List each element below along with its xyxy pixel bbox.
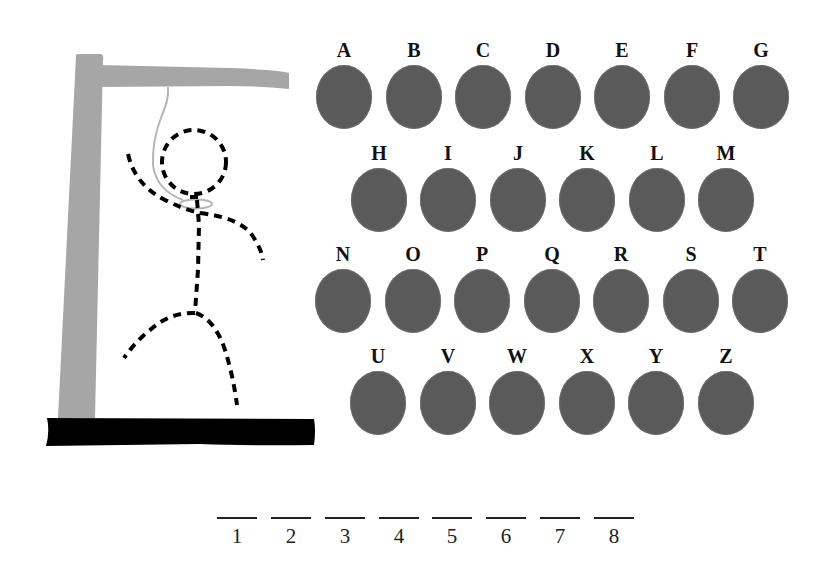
letter-label: V <box>419 345 477 367</box>
letter-label: Q <box>523 243 581 265</box>
letter-key-e[interactable]: E <box>593 39 651 127</box>
letter-disc[interactable] <box>350 371 406 435</box>
word-slot-4: 4 <box>379 512 419 548</box>
letter-key-o[interactable]: O <box>384 243 442 331</box>
letter-key-l[interactable]: L <box>628 142 686 230</box>
letter-key-t[interactable]: T <box>731 243 789 331</box>
word-slot-2: 2 <box>271 512 311 548</box>
letter-disc[interactable] <box>698 168 754 232</box>
word-slot-6: 6 <box>486 512 526 548</box>
letter-label: Y <box>627 345 685 367</box>
letter-disc[interactable] <box>351 168 407 232</box>
letter-disc[interactable] <box>420 168 476 232</box>
letter-disc[interactable] <box>593 269 649 333</box>
letter-disc[interactable] <box>524 269 580 333</box>
letter-disc[interactable] <box>385 269 441 333</box>
slot-underline <box>594 517 634 519</box>
letter-label: X <box>558 345 616 367</box>
word-slot-8: 8 <box>594 512 634 548</box>
letter-label: N <box>314 243 372 265</box>
letter-disc[interactable] <box>733 65 789 129</box>
slot-number: 6 <box>486 524 526 548</box>
letter-disc[interactable] <box>525 65 581 129</box>
letter-key-n[interactable]: N <box>314 243 372 331</box>
letter-key-g[interactable]: G <box>732 39 790 127</box>
word-slot-3: 3 <box>325 512 365 548</box>
letter-disc[interactable] <box>315 269 371 333</box>
letter-label: E <box>593 39 651 61</box>
word-slot-1: 1 <box>217 512 257 548</box>
letter-key-z[interactable]: Z <box>697 345 755 433</box>
letter-key-x[interactable]: X <box>558 345 616 433</box>
letter-disc[interactable] <box>454 269 510 333</box>
letter-label: U <box>349 345 407 367</box>
letter-key-c[interactable]: C <box>454 39 512 127</box>
letter-label: S <box>662 243 720 265</box>
letter-label: C <box>454 39 512 61</box>
gallows-beam <box>98 65 289 89</box>
letter-label: L <box>628 142 686 164</box>
letter-disc[interactable] <box>698 371 754 435</box>
letter-disc[interactable] <box>732 269 788 333</box>
figure-body <box>195 200 199 312</box>
letter-disc[interactable] <box>628 371 684 435</box>
letter-disc[interactable] <box>420 371 476 435</box>
letter-label: I <box>419 142 477 164</box>
letter-disc[interactable] <box>664 65 720 129</box>
letter-disc[interactable] <box>490 168 546 232</box>
gallows-frame <box>46 54 315 446</box>
slot-underline <box>486 517 526 519</box>
gallows-post <box>58 54 103 418</box>
letter-key-y[interactable]: Y <box>627 345 685 433</box>
letter-key-w[interactable]: W <box>488 345 546 433</box>
letter-label: K <box>558 142 616 164</box>
letter-disc[interactable] <box>663 269 719 333</box>
letter-disc[interactable] <box>386 65 442 129</box>
letter-key-m[interactable]: M <box>697 142 755 230</box>
letter-label: W <box>488 345 546 367</box>
letter-key-h[interactable]: H <box>350 142 408 230</box>
slot-number: 7 <box>540 524 580 548</box>
letter-key-q[interactable]: Q <box>523 243 581 331</box>
figure-head <box>162 130 226 194</box>
gallows-base <box>46 418 315 446</box>
letter-key-b[interactable]: B <box>385 39 443 127</box>
slot-underline <box>217 517 257 519</box>
letter-key-k[interactable]: K <box>558 142 616 230</box>
letter-key-s[interactable]: S <box>662 243 720 331</box>
slot-underline <box>271 517 311 519</box>
slot-number: 2 <box>271 524 311 548</box>
letter-key-u[interactable]: U <box>349 345 407 433</box>
letter-key-r[interactable]: R <box>592 243 650 331</box>
letter-key-j[interactable]: J <box>489 142 547 230</box>
figure-right-leg <box>196 313 237 405</box>
letter-label: O <box>384 243 442 265</box>
letter-disc[interactable] <box>455 65 511 129</box>
letter-disc[interactable] <box>316 65 372 129</box>
letter-key-i[interactable]: I <box>419 142 477 230</box>
slot-underline <box>540 517 580 519</box>
letter-label: D <box>524 39 582 61</box>
letter-label: T <box>731 243 789 265</box>
letter-disc[interactable] <box>594 65 650 129</box>
letter-disc[interactable] <box>629 168 685 232</box>
letter-disc[interactable] <box>559 168 615 232</box>
stick-figure <box>124 130 263 405</box>
word-slot-7: 7 <box>540 512 580 548</box>
letter-key-a[interactable]: A <box>315 39 373 127</box>
letter-label: Z <box>697 345 755 367</box>
letter-label: H <box>350 142 408 164</box>
figure-right-arm <box>200 213 263 260</box>
letter-key-v[interactable]: V <box>419 345 477 433</box>
letter-label: J <box>489 142 547 164</box>
letter-label: M <box>697 142 755 164</box>
letter-key-d[interactable]: D <box>524 39 582 127</box>
letter-label: A <box>315 39 373 61</box>
slot-number: 8 <box>594 524 634 548</box>
letter-key-f[interactable]: F <box>663 39 721 127</box>
letter-disc[interactable] <box>489 371 545 435</box>
letter-disc[interactable] <box>559 371 615 435</box>
letter-key-p[interactable]: P <box>453 243 511 331</box>
word-slot-5: 5 <box>432 512 472 548</box>
letter-label: P <box>453 243 511 265</box>
